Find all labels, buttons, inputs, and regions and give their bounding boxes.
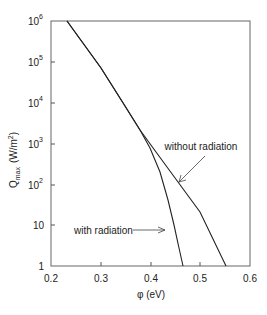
svg-text:Qmax(W/m2): Qmax(W/m2) [7, 132, 21, 188]
y-tick-label: 10 [28, 180, 40, 191]
y-axis-title: Qmax(W/m2) [7, 132, 21, 188]
y-tick-label: 10 [28, 16, 40, 27]
label-with-radiation: with radiation [73, 225, 133, 236]
chart: 1 10 10 2 10 3 10 4 10 5 10 6 0.2 0.3 0.… [0, 0, 267, 315]
arrow-without-radiation [179, 156, 205, 182]
y-tick-label: 1 [38, 261, 44, 272]
y-axis-ticks [51, 62, 55, 225]
arrow-with-radiation [133, 227, 165, 233]
x-tick-label: 0.3 [94, 273, 108, 284]
y-tick-exp: 6 [39, 13, 43, 20]
x-axis-title: φ (eV) [137, 289, 165, 300]
y-tick-exp: 2 [39, 177, 43, 184]
y-tick-exp: 3 [39, 136, 43, 143]
x-axis-ticks [101, 262, 200, 266]
y-axis-tick-labels: 1 10 10 2 10 3 10 4 10 5 10 6 [28, 13, 45, 272]
y-tick-label: 10 [28, 57, 40, 68]
x-tick-label: 0.6 [243, 273, 257, 284]
y-axis-title-sub: max [14, 167, 21, 181]
x-axis-tick-labels: 0.2 0.3 0.4 0.5 0.6 [44, 273, 257, 284]
x-tick-label: 0.4 [144, 273, 158, 284]
y-axis-title-unit-close: ) [8, 132, 19, 135]
y-tick-exp: 5 [39, 54, 43, 61]
y-tick-label: 10 [28, 98, 40, 109]
x-tick-label: 0.2 [44, 273, 58, 284]
y-tick-exp: 4 [39, 95, 43, 102]
x-tick-label: 0.5 [193, 273, 207, 284]
label-without-radiation: without radiation [164, 141, 238, 152]
y-tick-label: 10 [33, 220, 45, 231]
y-axis-title-unit: (W/m [8, 139, 19, 163]
y-tick-label: 10 [28, 139, 40, 150]
